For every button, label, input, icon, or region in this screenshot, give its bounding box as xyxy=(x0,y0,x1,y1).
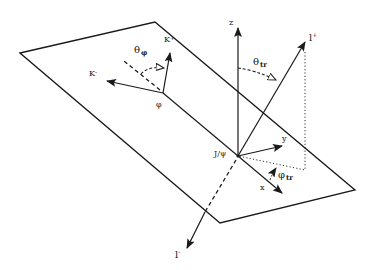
k-minus-label: K- xyxy=(89,70,97,78)
l-plus-label: l+ xyxy=(309,33,317,43)
l-minus-arrow xyxy=(187,212,205,248)
phi-tr-label: φtr xyxy=(278,170,293,180)
k-plus-label: K+ xyxy=(164,36,175,44)
transversity-diagram: z l+ θtr y J/ψ φtr x l- θφ K+ K- φ xyxy=(0,0,370,270)
k-plus-arrow xyxy=(163,53,170,93)
z-axis-label: z xyxy=(229,19,233,27)
phi-label: φ xyxy=(156,101,162,109)
theta-tr-arc xyxy=(238,68,276,80)
phi-flight-line xyxy=(163,93,238,156)
theta-tr-label: θtr xyxy=(253,57,267,67)
k-minus-arrow xyxy=(107,81,163,93)
l-minus-dashed-segment xyxy=(205,160,236,212)
x-axis-label: x xyxy=(260,184,265,192)
origin-label: J/ψ xyxy=(214,150,226,158)
phi-tr-arc xyxy=(270,168,276,180)
theta-phi-label: θφ xyxy=(134,45,147,55)
y-axis-arrow xyxy=(238,146,282,156)
theta-phi-arc xyxy=(141,68,164,74)
origin-point xyxy=(236,154,239,157)
l-minus-label: l- xyxy=(175,250,180,260)
y-axis-label: y xyxy=(282,135,287,143)
